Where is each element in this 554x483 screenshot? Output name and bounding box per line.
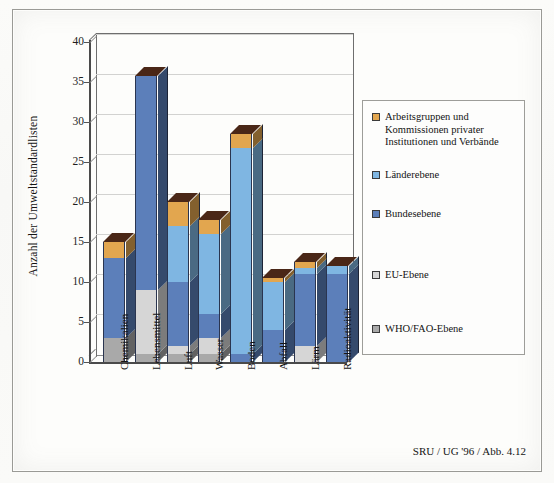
x-axis-category-label: Lebensmittel [150, 313, 162, 370]
figure-root: Anzahl der Umweltstandardlisten 05101520… [0, 0, 554, 483]
legend-swatch-icon [372, 325, 380, 333]
legend-swatch-icon [372, 171, 380, 179]
bar-luft[interactable] [167, 0, 189, 362]
y-axis-tick-label: 25 [73, 156, 85, 167]
bar-segment [230, 148, 252, 354]
legend-item[interactable]: Arbeitsgruppen und Kommissionen privater… [372, 111, 523, 149]
y-axis-tick-label: 5 [78, 316, 84, 327]
bar-lebensmittel[interactable] [135, 0, 157, 362]
legend-swatch-icon [372, 210, 380, 218]
bar-segment [294, 274, 316, 346]
legend-swatch-icon [372, 271, 380, 279]
legend-item-label: Bundesebene [385, 208, 441, 221]
y-axis-title: Anzahl der Umweltstandardlisten [27, 101, 39, 291]
x-axis-category-label: Wasser [213, 339, 225, 371]
bar-chemikalien[interactable] [103, 0, 125, 362]
bar-top-cap [326, 266, 348, 275]
y-axis-tick-label: 10 [73, 276, 85, 287]
chart-legend: Arbeitsgruppen und Kommissionen privater… [362, 100, 525, 355]
bar-top-cap [230, 134, 252, 143]
y-axis-tick-label: 40 [73, 36, 85, 47]
legend-item-label: WHO/FAO-Ebene [385, 323, 463, 336]
y-axis-tick-label: 20 [73, 196, 85, 207]
y-axis-tick-label: 15 [73, 236, 85, 247]
bar-top-cap [294, 262, 316, 271]
bar-segment [262, 282, 284, 330]
y-axis-tick-label: 30 [73, 116, 85, 127]
bar-top-cap [135, 76, 157, 85]
y-axis-tick-label: 0 [78, 356, 84, 367]
x-axis-category-label: Boden [245, 341, 257, 370]
bar-boden[interactable] [230, 0, 252, 362]
legend-item[interactable]: EU-Ebene [372, 269, 429, 282]
legend-swatch-icon [372, 113, 380, 121]
y-axis-tick-label: 35 [73, 76, 85, 87]
legend-item[interactable]: Bundesebene [372, 208, 441, 221]
bar-top-cap [198, 220, 220, 229]
bar-segment [135, 76, 157, 290]
bar-top-cap [103, 242, 125, 251]
bar-segment [198, 314, 220, 338]
x-axis-category-label: Abfall [277, 342, 289, 370]
legend-item[interactable]: Länderebene [372, 169, 439, 182]
legend-item-label: Länderebene [385, 169, 439, 182]
bar-abfall[interactable] [262, 0, 284, 362]
legend-item-label: Arbeitsgruppen und Kommissionen privater… [385, 111, 523, 149]
x-axis-category-label: Luft [182, 351, 194, 370]
bar-segment [167, 226, 189, 282]
x-axis-category-label: Lärm [309, 346, 321, 370]
bar-segment [198, 234, 220, 314]
bar-wasser[interactable] [198, 0, 220, 362]
legend-item[interactable]: WHO/FAO-Ebene [372, 323, 463, 336]
figure-credit: SRU / UG '96 / Abb. 4.12 [413, 445, 526, 457]
bar-top-cap [262, 278, 284, 287]
bar-top-cap [167, 202, 189, 211]
bar-segment [167, 282, 189, 346]
bar-l-rm[interactable] [294, 0, 316, 362]
legend-item-label: EU-Ebene [385, 269, 429, 282]
x-axis-category-label: Chemikalien [118, 314, 130, 370]
x-axis-category-label: Radioaktivität [341, 308, 353, 370]
